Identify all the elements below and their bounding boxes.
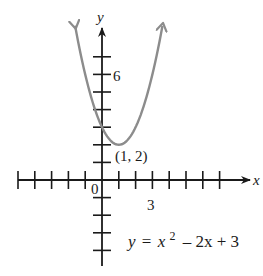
equation-rest: – 2x + 3 xyxy=(182,232,239,251)
origin-label: 0 xyxy=(91,181,99,197)
x-tick-label-3: 3 xyxy=(147,197,155,213)
vertex-label: (1, 2) xyxy=(115,148,148,165)
equation-label: y = x 2 – 2x + 3 xyxy=(126,225,239,251)
plot-canvas: y x 6 3 0 (1, 2) y = x 2 – 2x + 3 xyxy=(0,0,263,276)
graph-figure: y x 6 3 0 (1, 2) y = x 2 – 2x + 3 xyxy=(0,0,263,276)
equation-lhs: y xyxy=(126,232,136,251)
x-axis-label: x xyxy=(252,172,260,188)
equation-exponent: 2 xyxy=(169,229,175,243)
equation-x: x xyxy=(157,232,166,251)
axes xyxy=(18,28,250,266)
y-tick-label-6: 6 xyxy=(113,68,121,84)
equation-equals: = xyxy=(142,232,152,251)
parabola-curve xyxy=(75,26,162,145)
y-axis-label: y xyxy=(95,9,104,25)
